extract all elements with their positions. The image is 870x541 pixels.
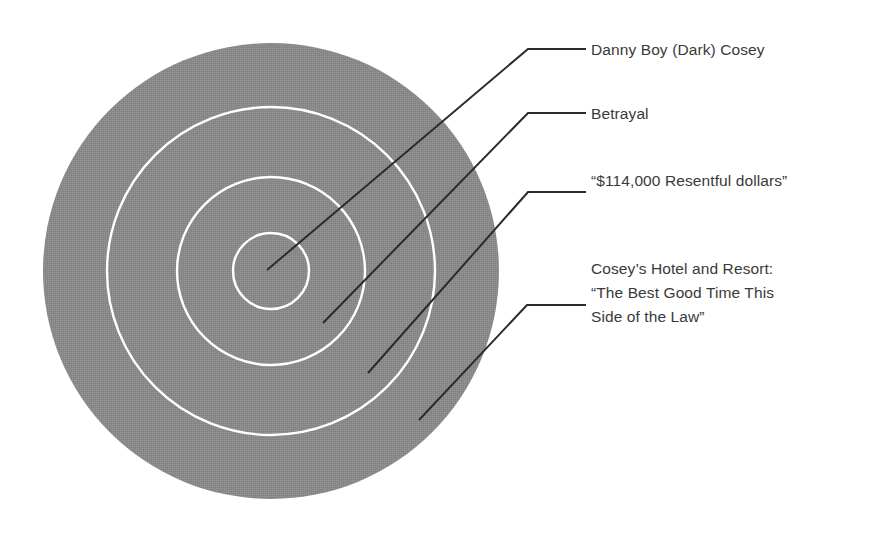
label-danny-boy-cosey: Danny Boy (Dark) Cosey: [591, 38, 851, 62]
diagram-canvas: Danny Boy (Dark) Cosey Betrayal “$114,00…: [0, 0, 870, 541]
label-betrayal: Betrayal: [591, 102, 851, 126]
outer-disc: [43, 43, 499, 499]
label-resentful-dollars: “$114,000 Resentful dollars”: [591, 169, 806, 193]
label-coseys-hotel-and-resort: Cosey’s Hotel and Resort: “The Best Good…: [591, 257, 796, 329]
